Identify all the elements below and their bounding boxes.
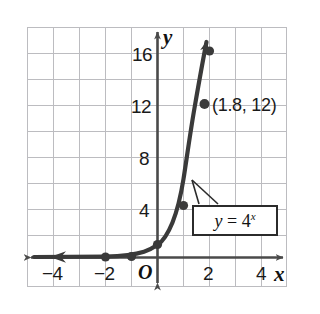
data-point	[153, 240, 162, 249]
y-tick-label-12: 12	[131, 96, 151, 118]
data-point	[205, 46, 214, 55]
data-point	[179, 201, 188, 210]
data-point	[101, 252, 110, 261]
equation-operator: =	[227, 211, 237, 231]
origin-label: O	[138, 261, 152, 284]
y-tick-label-8: 8	[139, 148, 149, 170]
x-tick-label-neg2: −2	[94, 263, 115, 285]
equation-base: 4	[242, 211, 251, 231]
x-tick-label-2: 2	[203, 263, 213, 285]
y-axis-label: y	[163, 25, 172, 50]
equation-text: y = 4x	[214, 210, 255, 232]
point-annotation-label: (1.8, 12)	[212, 95, 276, 116]
y-tick-label-4: 4	[139, 200, 149, 222]
data-point-labeled	[200, 99, 210, 109]
x-axis-label: x	[274, 262, 285, 287]
y-tick-label-16: 16	[132, 44, 152, 66]
equation-callout-box: y = 4x	[192, 205, 278, 236]
x-tick-label-4: 4	[256, 263, 266, 285]
data-point	[127, 252, 136, 261]
equation-lhs: y	[214, 211, 222, 231]
x-tick-label-neg4: −4	[42, 263, 63, 285]
equation-exponent: x	[251, 210, 256, 222]
